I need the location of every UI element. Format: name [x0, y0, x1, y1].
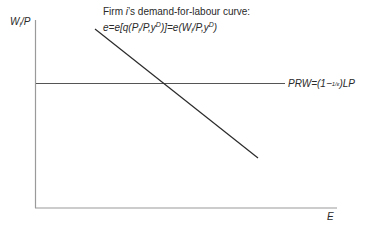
curve-title: Firm i’s demand-for-labour curve:: [103, 6, 250, 17]
prw-label: PRW=(1−1/ε)LP: [288, 78, 355, 90]
demand-for-labour-curve: [95, 29, 258, 158]
x-axis-label: E: [327, 211, 334, 222]
y-axis-label: Wi/P: [10, 16, 30, 30]
curve-equation: e=e[q(Pi/P,yD)]=e(Wi/P,yD): [103, 19, 217, 36]
